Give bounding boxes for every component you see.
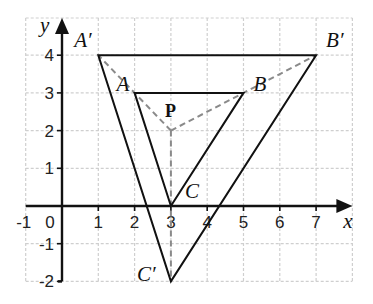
point-label-b: B <box>254 72 267 96</box>
point-label-p: P <box>165 101 176 121</box>
y-axis-arrow-icon <box>55 18 69 34</box>
y-tick-label: 3 <box>45 84 54 103</box>
x-tick-label: 2 <box>130 213 139 232</box>
point-label-a-prime: A′ <box>72 28 92 52</box>
y-tick-label: 4 <box>45 46 54 65</box>
point-label-c-prime: C′ <box>137 262 156 286</box>
x-tick-label: 7 <box>311 213 320 232</box>
point-label-c: C <box>185 179 200 203</box>
x-tick-label: 6 <box>275 213 284 232</box>
y-axis-label: y <box>38 13 50 37</box>
y-tick-label: -2 <box>39 272 54 291</box>
y-tick-label: 1 <box>45 159 54 178</box>
point-labels: ABCA′B′C′P <box>72 28 344 286</box>
x-tick-label: 0 <box>45 213 54 232</box>
point-label-a: A <box>115 72 130 96</box>
axes <box>26 18 353 281</box>
point-label-b-prime: B′ <box>326 28 344 52</box>
x-tick-label: 5 <box>239 213 248 232</box>
x-tick-label: -1 <box>16 213 31 232</box>
grid <box>26 18 353 281</box>
x-axis-label: x <box>342 209 353 233</box>
coordinate-plane: -1012345674321-1-2xy ABCA′B′C′P <box>0 0 373 304</box>
y-tick-label: 2 <box>45 122 54 141</box>
y-tick-label: -1 <box>39 235 54 254</box>
x-tick-label: 1 <box>94 213 103 232</box>
